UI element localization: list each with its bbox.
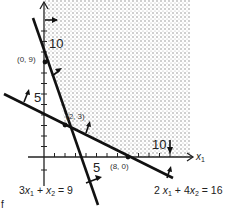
corner-point-8-0 — [126, 155, 131, 160]
equation-label-c2: 2 x1 + 4x2 = 16 — [154, 185, 223, 197]
arrow-icon-c2-left — [24, 89, 30, 102]
feasible-region — [45, 0, 190, 157]
point-label-0-9: (0, 9) — [17, 56, 36, 64]
x-axis-label: x1 — [196, 152, 205, 163]
y-tick-label-5: 5 — [34, 91, 41, 104]
corner-glyph: f — [1, 200, 4, 210]
point-label-2-3: (2, 3) — [66, 113, 85, 121]
x-tick-label-10: 10 — [152, 138, 166, 151]
corner-point-0-9 — [43, 60, 48, 65]
x-tick-label-5: 5 — [93, 161, 100, 174]
corner-point-2-3 — [63, 123, 68, 128]
feasible-region-plot — [0, 0, 230, 210]
equation-label-c1: 3x1 + x2 = 9 — [19, 185, 73, 197]
y-tick-label-10: 10 — [49, 37, 63, 50]
point-label-8-0: (8, 0) — [110, 163, 129, 171]
